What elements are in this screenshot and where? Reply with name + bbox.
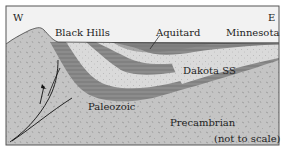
geologic-cross-section: W E Black Hills Aquitard Minnesota Dakot… xyxy=(0,0,286,158)
label-paleozoic: Paleozoic xyxy=(88,101,136,112)
label-precambrian: Precambrian xyxy=(170,117,236,128)
label-minnesota: Minnesota xyxy=(226,27,279,38)
label-east: E xyxy=(268,12,275,23)
label-dakota: Dakota SS xyxy=(183,65,236,76)
label-scale-note: (not to scale) xyxy=(214,133,281,144)
label-black-hills: Black Hills xyxy=(55,27,110,38)
label-west: W xyxy=(13,12,24,23)
label-aquitard: Aquitard xyxy=(155,27,201,38)
